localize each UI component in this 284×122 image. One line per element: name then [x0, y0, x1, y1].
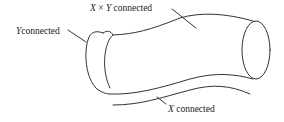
y-band-outer: [86, 32, 103, 89]
var-y: Y: [106, 3, 111, 13]
label-x-times-y-connected: X × Y connected: [90, 4, 152, 14]
y-band-inner: [103, 31, 113, 88]
times-symbol: ×: [98, 3, 103, 13]
label-y-connected: Yconnected: [16, 27, 60, 37]
label-x-connected: X connected: [168, 105, 215, 115]
var-x: X: [90, 3, 96, 13]
x-base-curve: [113, 86, 250, 105]
var-x: X: [168, 104, 174, 114]
connected-text: connected: [114, 3, 153, 13]
tube-bottom-edge: [97, 74, 253, 94]
connected-text: connected: [21, 26, 60, 36]
connected-text: connected: [176, 104, 215, 114]
leader-y: [68, 30, 86, 42]
leader-xy: [172, 9, 196, 28]
tube-end-ellipse: [242, 21, 270, 79]
connectivity-diagram: [0, 0, 284, 122]
